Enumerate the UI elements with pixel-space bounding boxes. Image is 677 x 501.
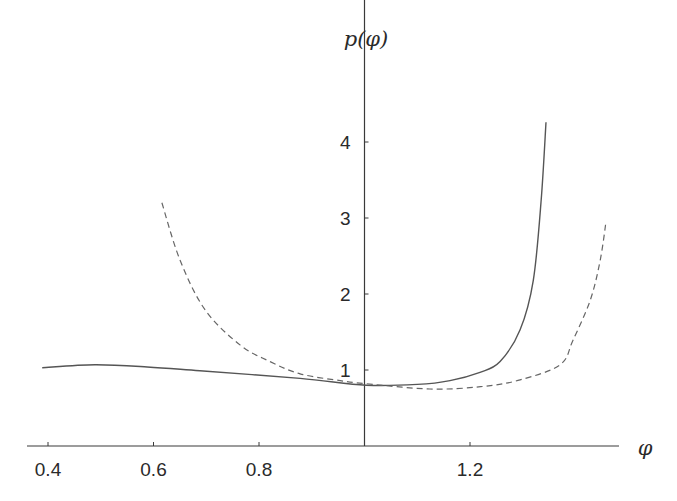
- dashed-curve: [162, 203, 606, 389]
- chart: 0.40.60.81.2 1234 p(φ) φ: [0, 0, 677, 501]
- curves: [42, 122, 606, 389]
- y-tick-label: 2: [340, 284, 351, 305]
- x-ticks: 0.40.60.81.2: [35, 442, 483, 480]
- x-axis-label: φ: [638, 436, 653, 460]
- x-tick-label: 0.4: [35, 459, 62, 480]
- y-tick-label: 4: [340, 132, 351, 153]
- axes: 0.40.60.81.2 1234: [27, 0, 619, 480]
- y-tick-label: 3: [340, 208, 351, 229]
- y-axis-label: p(φ): [344, 27, 389, 51]
- solid-curve: [42, 122, 546, 385]
- y-tick-label: 1: [340, 360, 351, 381]
- x-tick-label: 0.6: [140, 459, 166, 480]
- x-tick-label: 0.8: [246, 459, 272, 480]
- x-tick-label: 1.2: [457, 459, 483, 480]
